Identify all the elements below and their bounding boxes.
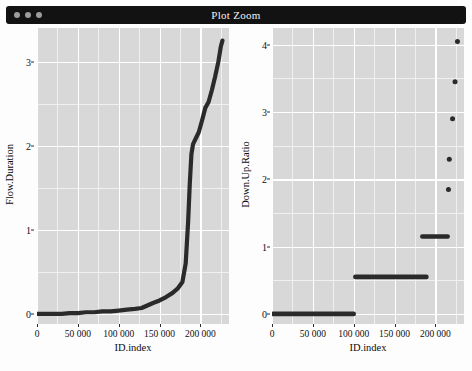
x-tick-mark	[395, 324, 396, 327]
x-tick-label: 100 000	[103, 329, 134, 339]
x-tick-label: 0	[270, 329, 275, 339]
y-tick-mark	[267, 44, 270, 45]
x-tick-mark	[78, 324, 79, 327]
y-tick-mark	[31, 229, 34, 230]
x-tick-label: 200 000	[420, 329, 451, 339]
plot-zoom-window: Plot Zoom Flow.Duration 0123 050 000100 …	[0, 0, 472, 371]
y-tick-mark	[267, 313, 270, 314]
y-tick-mark	[31, 61, 34, 62]
x-tick-mark	[435, 324, 436, 327]
plot-panel-right	[272, 28, 464, 324]
plot-canvas: Flow.Duration 0123 050 000100 000150 000…	[0, 24, 472, 364]
data-series	[37, 28, 229, 324]
window-titlebar: Plot Zoom	[6, 6, 466, 24]
y-tick-mark	[31, 313, 34, 314]
x-axis-ticks-right: 050 000100 000150 000200 000	[272, 324, 464, 340]
data-series	[272, 28, 464, 324]
x-axis-label-left: ID.index	[37, 342, 229, 353]
facet-flow-duration: Flow.Duration 0123 050 000100 000150 000…	[0, 24, 236, 364]
y-axis-label-right: Down.Up.Ratio	[238, 24, 252, 324]
x-tick-label: 50 000	[65, 329, 91, 339]
y-tick-mark	[267, 179, 270, 180]
x-tick-label: 200 000	[185, 329, 216, 339]
x-tick-mark	[200, 324, 201, 327]
x-tick-mark	[160, 324, 161, 327]
x-tick-mark	[354, 324, 355, 327]
window-title: Plot Zoom	[6, 9, 466, 21]
x-tick-label: 0	[35, 329, 40, 339]
x-tick-label: 100 000	[338, 329, 369, 339]
y-tick-mark	[267, 112, 270, 113]
x-tick-mark	[37, 324, 38, 327]
x-tick-label: 150 000	[144, 329, 175, 339]
x-tick-mark	[119, 324, 120, 327]
y-axis-label-left: Flow.Duration	[2, 24, 16, 324]
x-axis-label-right: ID.index	[272, 342, 464, 353]
x-tick-label: 150 000	[379, 329, 410, 339]
x-axis-ticks-left: 050 000100 000150 000200 000	[37, 324, 229, 340]
page-caption	[0, 362, 472, 371]
x-tick-mark	[313, 324, 314, 327]
x-tick-label: 50 000	[300, 329, 326, 339]
y-axis-ticks-left: 0123	[16, 28, 34, 324]
plot-panel-left	[37, 28, 229, 324]
y-axis-ticks-right: 01234	[252, 28, 270, 324]
y-tick-mark	[31, 145, 34, 146]
x-tick-mark	[272, 324, 273, 327]
y-tick-mark	[267, 246, 270, 247]
facet-down-up-ratio: Down.Up.Ratio 01234 050 000100 000150 00…	[236, 24, 472, 364]
